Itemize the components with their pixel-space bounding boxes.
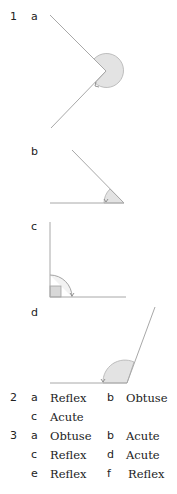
angle-a-reflex [50,15,124,128]
angle-d-arm-slant [127,307,155,383]
exercise-2-number: 2 [10,390,17,406]
angle-c-right [50,222,126,297]
angle-c-square [50,286,61,297]
answer-value: Obtuse [126,390,168,406]
answer-label: a [31,390,38,406]
answer-value: Acute [126,428,160,444]
angle-a-arm-lower [51,71,106,128]
exercise-2-row-1: 2 a Reflex b Obtuse [0,390,177,408]
angle-d-obtuse [50,307,155,383]
angle-a-fill [94,53,124,87]
answer-label: c [31,409,37,425]
answer-value: Reflex [50,390,86,406]
angle-d-fill [103,360,134,383]
answer-label: a [31,428,38,444]
angle-a-arm-upper [50,15,106,71]
answer-label: b [107,390,114,406]
answer-value: Reflex [50,466,86,482]
exercise-2-row-2: c Acute [0,409,177,427]
angle-b-acute [50,150,124,203]
answer-label: b [107,428,114,444]
answer-value: Reflex [50,447,86,463]
angle-b-arm-slant [72,150,124,203]
exercise-3-row-1: 3 a Obtuse b Acute [0,428,177,446]
answer-label: c [31,447,37,463]
answer-value: Acute [126,447,160,463]
exercise-3-number: 3 [10,428,17,444]
answer-value: Reflex [128,466,164,482]
answer-label: f [107,466,111,482]
answer-label: d [107,447,114,463]
answer-value: Obtuse [50,428,92,444]
exercise-3-row-2: c Reflex d Acute [0,447,177,465]
answer-value: Acute [50,409,84,425]
exercise-3-row-3: e Reflex f Reflex [0,466,177,484]
answer-label: e [31,466,38,482]
